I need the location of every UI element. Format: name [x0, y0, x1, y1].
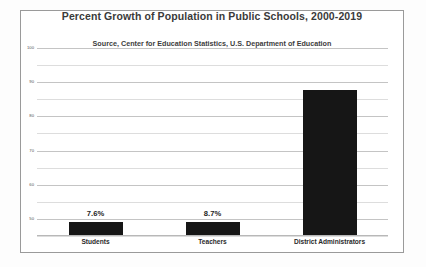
y-axis-tick-label: 60 — [29, 183, 34, 187]
gridline-major: 90 — [37, 82, 388, 83]
gridline-minor — [37, 65, 388, 66]
y-axis-tick-label: 70 — [29, 148, 34, 152]
category-label: Teachers — [198, 238, 226, 245]
category-labels-group: StudentsTeachersDistrict Administrators — [37, 236, 388, 250]
gridline-major: 100 — [37, 48, 388, 49]
bar-data-label: 8.7% — [204, 209, 221, 218]
category-label: Students — [81, 238, 109, 245]
chart-title: Percent Growth of Population in Public S… — [20, 10, 404, 22]
bar-district-administrators — [303, 90, 357, 236]
chart-page: Percent Growth of Population in Public S… — [0, 0, 426, 267]
bar-teachers — [186, 222, 240, 236]
category-label: District Administrators — [294, 238, 365, 245]
y-axis-tick-label: 80 — [29, 114, 34, 118]
y-axis-tick-label: 50 — [29, 217, 34, 221]
bar-data-label: 7.6% — [87, 209, 104, 218]
y-axis-tick-label: 90 — [29, 80, 34, 84]
chart-subtitle: Source, Center for Education Statistics,… — [20, 39, 404, 48]
plot-area: 5060708090100 7.6%8.7% — [37, 48, 388, 236]
y-axis-tick-label: 100 — [27, 46, 34, 50]
bar-students — [69, 222, 123, 236]
